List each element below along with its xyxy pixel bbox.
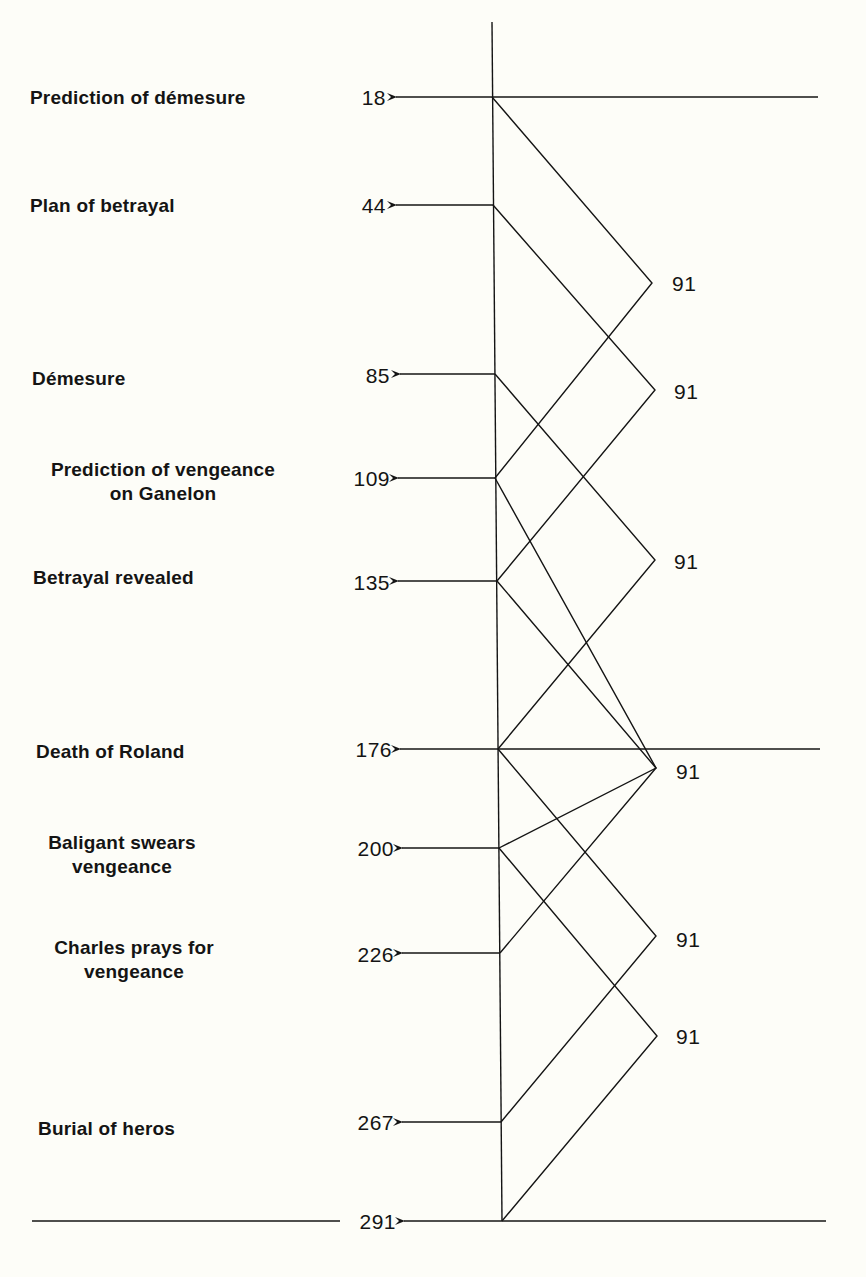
span-label-44-135: 91 <box>674 380 698 404</box>
diagram-canvas: Prediction of démesure Plan of betrayal… <box>0 0 866 1277</box>
chevron-44-135 <box>493 205 655 581</box>
event-label-44: Plan of betrayal <box>30 194 175 218</box>
chevron-135-226 <box>497 581 656 953</box>
span-label-200-291: 91 <box>676 1025 700 1049</box>
span-label-85-176: 91 <box>674 550 698 574</box>
event-label-85: Démesure <box>32 367 125 391</box>
event-label-200: Baligant swears vengeance <box>36 831 208 879</box>
event-label-267: Burial of heros <box>38 1117 175 1141</box>
span-label-176-267: 91 <box>676 928 700 952</box>
event-label-226: Charles prays for vengeance <box>38 936 230 984</box>
line-number-85: 85 <box>330 364 390 388</box>
event-label-135: Betrayal revealed <box>33 566 194 590</box>
line-number-44: 44 <box>326 194 386 218</box>
event-label-109: Prediction of vengeance on Ganelon <box>32 458 294 506</box>
diagram-lines <box>0 0 866 1277</box>
span-label-18-109: 91 <box>672 272 696 296</box>
event-label-18: Prediction of démesure <box>30 86 246 110</box>
line-number-291: 291 <box>336 1210 396 1234</box>
line-number-18: 18 <box>326 86 386 110</box>
span-label-109-200: 91 <box>676 760 700 784</box>
line-number-135: 135 <box>330 571 390 595</box>
chevron-85-176 <box>495 374 655 749</box>
vertical-axis <box>492 22 502 1221</box>
line-number-267: 267 <box>334 1111 394 1135</box>
chevron-18-109 <box>492 97 652 478</box>
event-label-176: Death of Roland <box>36 740 185 764</box>
line-number-176: 176 <box>332 738 392 762</box>
chevron-200-291 <box>499 848 657 1221</box>
line-number-200: 200 <box>334 837 394 861</box>
line-number-226: 226 <box>334 943 394 967</box>
line-number-109: 109 <box>330 467 390 491</box>
